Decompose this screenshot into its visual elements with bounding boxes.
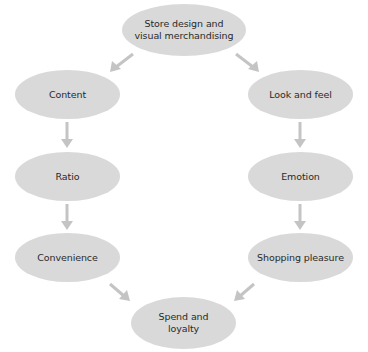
node-store-design: Store design andvisual merchandising <box>122 4 246 56</box>
node-convenience-label: Convenience <box>37 252 97 264</box>
arrow-top-to-look-and-feel <box>236 54 259 72</box>
node-content: Content <box>15 70 120 119</box>
flow-diagram: Store design andvisual merchandising Con… <box>0 0 368 352</box>
node-shopping-pleasure: Shopping pleasure <box>248 233 353 282</box>
arrow-emotion-to-shopping-pleasure <box>294 204 306 230</box>
arrow-convenience-to-spend <box>110 284 130 301</box>
node-ratio: Ratio <box>15 152 120 201</box>
node-emotion: Emotion <box>248 152 353 201</box>
arrow-top-to-content <box>110 54 133 72</box>
node-ratio-label: Ratio <box>56 171 80 183</box>
node-spend-line1: Spend and <box>159 311 209 322</box>
arrow-ratio-to-convenience <box>61 204 73 230</box>
node-spend-and-loyalty: Spend andloyalty <box>131 297 236 349</box>
node-shopping-pleasure-label: Shopping pleasure <box>257 252 344 264</box>
arrow-shopping-pleasure-to-spend <box>234 284 254 301</box>
node-content-label: Content <box>49 89 86 101</box>
node-spend-line2: loyalty <box>168 323 199 334</box>
node-look-and-feel-label: Look and feel <box>269 89 332 101</box>
arrow-look-and-feel-to-emotion <box>294 122 306 148</box>
arrow-content-to-ratio <box>61 122 73 148</box>
node-store-design-line1: Store design and <box>145 18 224 29</box>
node-emotion-label: Emotion <box>281 171 320 183</box>
node-convenience: Convenience <box>15 233 120 282</box>
node-look-and-feel: Look and feel <box>248 70 353 119</box>
node-store-design-line2: visual merchandising <box>135 30 234 41</box>
